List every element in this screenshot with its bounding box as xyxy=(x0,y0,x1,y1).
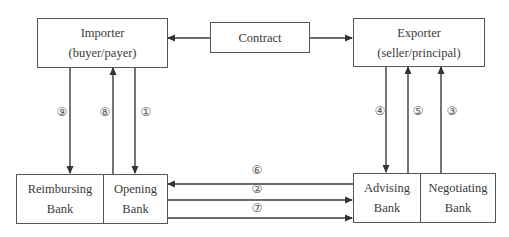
contract-title: Contract xyxy=(238,28,281,48)
importer-node: Importer (buyer/payer) xyxy=(37,18,168,68)
negotiating-bank-node: Negotiating Bank xyxy=(420,173,496,223)
advising-bank-line1: Advising xyxy=(364,178,410,198)
negotiating-bank-line2: Bank xyxy=(445,198,471,218)
importer-subtitle: (buyer/payer) xyxy=(68,43,136,63)
step2-label: ② xyxy=(252,182,263,196)
opening-bank-line2: Bank xyxy=(122,199,148,219)
opening-bank-node: Opening Bank xyxy=(103,174,168,224)
advising-bank-node: Advising Bank xyxy=(353,173,421,223)
reimbursing-bank-line1: Reimbursing xyxy=(28,179,93,199)
negotiating-bank-line1: Negotiating xyxy=(428,178,487,198)
step6-label: ⑥ xyxy=(252,163,263,177)
exporter-subtitle: (seller/principal) xyxy=(377,43,460,63)
advising-bank-line2: Bank xyxy=(374,198,400,218)
reimbursing-bank-line2: Bank xyxy=(47,199,73,219)
exporter-title: Exporter xyxy=(397,23,441,43)
importer-title: Importer xyxy=(81,23,125,43)
step9-label: ⑨ xyxy=(57,105,68,119)
step4-label: ④ xyxy=(375,104,386,118)
exporter-node: Exporter (seller/principal) xyxy=(353,18,485,67)
step7-label: ⑦ xyxy=(252,201,263,215)
step5-label: ⑤ xyxy=(413,104,424,118)
step1-label: ① xyxy=(141,105,152,119)
step8-label: ⑧ xyxy=(100,105,111,119)
reimbursing-bank-node: Reimbursing Bank xyxy=(16,174,104,224)
opening-bank-line1: Opening xyxy=(114,179,157,199)
contract-node: Contract xyxy=(210,22,310,53)
step3-label: ③ xyxy=(447,104,458,118)
